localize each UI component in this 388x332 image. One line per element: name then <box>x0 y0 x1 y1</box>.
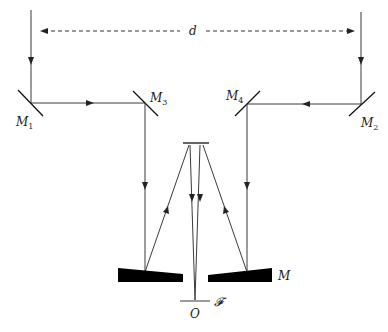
arrow-down-icon <box>244 182 250 190</box>
focal-plane: 𝓕 O <box>180 295 227 321</box>
arrow-down-icon <box>142 182 148 190</box>
mirror-m2-label: M2 <box>360 116 378 132</box>
primary-mirror-left <box>118 268 183 282</box>
mirror-m2: M2 <box>349 92 378 132</box>
focal-plane-label: 𝓕 <box>214 295 227 309</box>
arrow-down-icon <box>358 57 364 65</box>
mirror-m1-label: M1 <box>15 115 33 131</box>
baseline-arrow: d <box>40 24 355 38</box>
reflected-beams <box>145 145 247 272</box>
origin-label: O <box>190 307 200 321</box>
arrow-down-icon <box>28 57 34 65</box>
baseline-label: d <box>189 24 197 38</box>
mirror-m3-label: M3 <box>149 91 167 107</box>
arrowhead-left-icon <box>40 28 48 34</box>
primary-mirror-right <box>208 268 272 282</box>
primary-mirror: M <box>118 268 291 283</box>
mirror-m1: M1 <box>15 90 43 131</box>
primary-mirror-label: M <box>277 269 291 283</box>
arrow-right-icon <box>86 100 94 106</box>
converging-beams <box>189 145 203 300</box>
descending-beams <box>142 103 250 272</box>
arrow-down-icon <box>189 194 195 202</box>
arrow-up-icon <box>163 206 169 214</box>
mirror-m4: M4 <box>225 89 260 116</box>
arrowhead-right-icon <box>347 28 355 34</box>
arrow-up-icon <box>223 206 229 214</box>
transfer-beams <box>31 100 361 107</box>
mirror-m4-label: M4 <box>225 89 243 105</box>
arrow-left-icon <box>302 101 310 107</box>
interferometer-diagram: d M1 M3 M4 M2 <box>0 0 388 332</box>
